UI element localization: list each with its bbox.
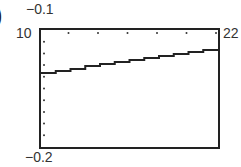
plot-area <box>0 0 241 167</box>
curve-line <box>41 49 218 73</box>
tick-dots <box>43 32 217 136</box>
viewing-window-frame <box>40 29 219 148</box>
